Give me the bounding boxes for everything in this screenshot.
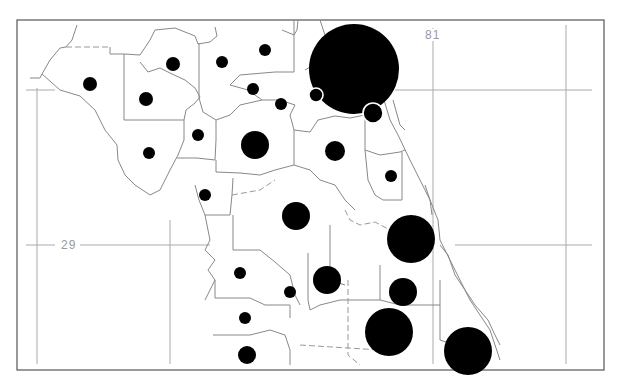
proportional-symbol	[192, 129, 204, 141]
proportional-symbol	[325, 141, 345, 161]
proportional-symbol	[309, 24, 399, 114]
proportional-symbol	[216, 56, 228, 68]
proportional-symbol	[363, 103, 383, 123]
proportional-symbol	[284, 286, 296, 298]
proportional-symbol	[241, 131, 269, 159]
proportional-symbol	[365, 308, 413, 356]
proportional-symbol	[139, 92, 153, 106]
proportional-symbol	[238, 346, 256, 364]
proportional-symbol	[234, 267, 246, 279]
proportional-symbol	[199, 189, 211, 201]
proportional-symbol	[389, 278, 417, 306]
proportional-symbol	[259, 44, 271, 56]
proportional-symbol	[282, 202, 310, 230]
latitude-label-29: 29	[59, 239, 78, 251]
proportional-symbol	[309, 88, 323, 102]
proportional-symbol	[387, 215, 435, 263]
proportional-symbol	[166, 57, 180, 71]
longitude-label-81: 81	[423, 29, 442, 41]
proportional-symbol	[313, 266, 341, 294]
proportional-symbol	[275, 98, 287, 110]
proportional-symbol	[444, 327, 492, 375]
proportional-symbol	[83, 77, 97, 91]
proportional-symbol	[143, 147, 155, 159]
proportional-symbol	[239, 312, 251, 324]
proportional-symbol	[247, 83, 259, 95]
proportional-symbol	[385, 170, 397, 182]
map-canvas	[0, 0, 618, 387]
